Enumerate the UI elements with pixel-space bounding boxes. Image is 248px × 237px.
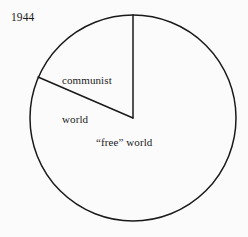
slice-label-communist-world-line1: communist (62, 74, 112, 87)
slice-label-free-world: “free” world (96, 136, 152, 149)
pie-chart-figure: 1944 communist world “free” world (0, 0, 248, 237)
pie-chart-canvas (0, 0, 248, 237)
year-label: 1944 (11, 11, 34, 25)
slice-label-communist-world-line2: world (62, 113, 112, 126)
